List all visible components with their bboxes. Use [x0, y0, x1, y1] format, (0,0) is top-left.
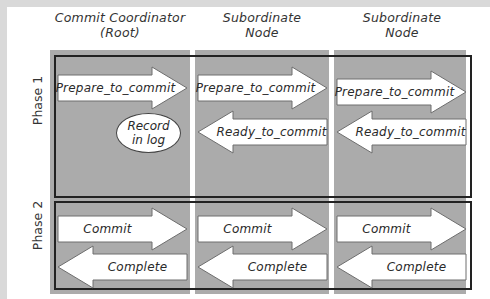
note-line-1: Record	[127, 119, 169, 133]
arrow-complete-1: Complete	[57, 245, 188, 289]
arrow-label: Prepare_to_commit	[57, 66, 188, 110]
arrow-label: Prepare_to_commit	[197, 66, 328, 110]
note-line-2: in log	[132, 133, 165, 147]
column-header-coordinator: Commit Coordinator (Root)	[50, 10, 190, 40]
column-title: Subordinate	[334, 10, 470, 25]
column-subtitle: Node	[334, 25, 470, 40]
phase-2-label: Phase 2	[30, 186, 45, 266]
column-title: Subordinate	[195, 10, 329, 25]
arrow-label: Prepare_to_commit	[336, 70, 467, 114]
arrow-prepare-to-commit-1: Prepare_to_commit	[57, 66, 188, 110]
arrow-label: Ready_to_commit	[197, 110, 328, 154]
column-header-subordinate-2: Subordinate Node	[334, 10, 470, 40]
column-header-subordinate-1: Subordinate Node	[195, 10, 329, 40]
frame-left	[0, 0, 7, 299]
arrow-label: Ready_to_commit	[336, 110, 467, 154]
arrow-ready-to-commit-2: Ready_to_commit	[336, 110, 467, 154]
frame-top	[0, 0, 490, 7]
record-in-log-note: Record in log	[116, 113, 181, 153]
column-subtitle: Node	[195, 25, 329, 40]
column-subtitle: (Root)	[50, 25, 190, 40]
arrow-prepare-to-commit-3: Prepare_to_commit	[336, 70, 467, 114]
arrow-prepare-to-commit-2: Prepare_to_commit	[197, 66, 328, 110]
arrow-complete-2: Complete	[197, 245, 328, 289]
arrow-ready-to-commit-1: Ready_to_commit	[197, 110, 328, 154]
arrow-label: Complete	[336, 245, 467, 289]
column-title: Commit Coordinator	[50, 10, 190, 25]
arrow-label: Complete	[57, 245, 188, 289]
arrow-complete-3: Complete	[336, 245, 467, 289]
phase-1-label: Phase 1	[30, 61, 45, 141]
arrow-label: Complete	[197, 245, 328, 289]
